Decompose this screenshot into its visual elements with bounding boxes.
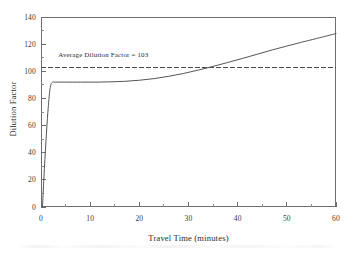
chart-figure: 020406080100120140 0102030405060 Dilutio… xyxy=(0,0,353,254)
x-axis-title: Travel Time (minutes) xyxy=(41,233,336,243)
y-tick-label: 120 xyxy=(12,40,36,49)
x-tick-label: 50 xyxy=(274,214,300,223)
x-tick-label: 60 xyxy=(323,214,349,223)
x-tick-label: 30 xyxy=(176,214,202,223)
y-tick-label: 0 xyxy=(12,203,36,212)
dilution-factor-curve xyxy=(42,34,336,207)
x-axis-major-ticks xyxy=(41,202,336,207)
average-dilution-factor-label: Average Dilution Factor = 103 xyxy=(58,51,148,59)
x-tick-label: 20 xyxy=(126,214,152,223)
y-tick-label: 140 xyxy=(12,13,36,22)
x-tick-label: 0 xyxy=(28,214,54,223)
x-tick-label: 10 xyxy=(77,214,103,223)
scan-artifact xyxy=(18,245,338,248)
y-axis-title: Dilution Factor xyxy=(8,59,18,159)
y-tick-label: 20 xyxy=(12,175,36,184)
x-tick-label: 40 xyxy=(225,214,251,223)
y-axis-minor-ticks xyxy=(41,31,44,194)
